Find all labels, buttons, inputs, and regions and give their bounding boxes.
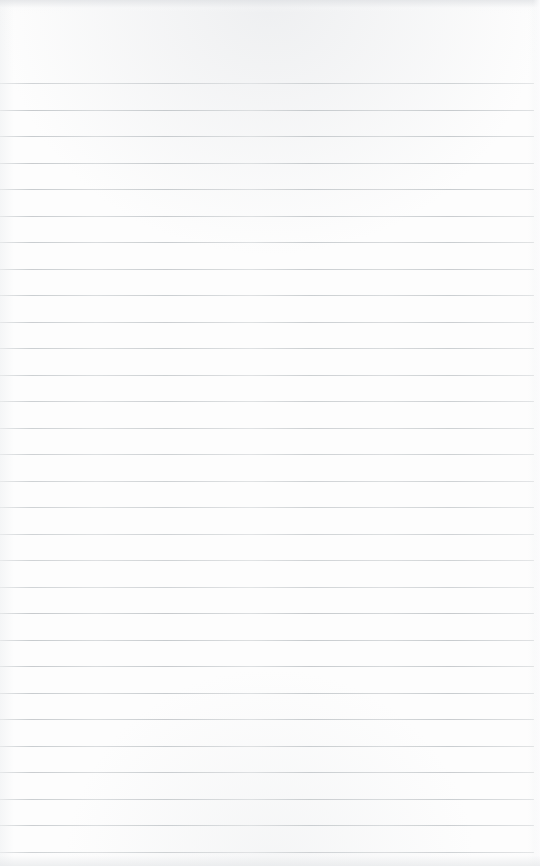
rule-line xyxy=(0,481,534,482)
rule-line xyxy=(0,693,534,694)
rule-line xyxy=(0,825,534,826)
rule-line xyxy=(0,613,534,614)
rule-line xyxy=(0,560,534,561)
ruled-lines-group xyxy=(0,0,540,866)
rule-line xyxy=(0,746,534,747)
rule-line xyxy=(0,375,534,376)
rule-line xyxy=(0,852,534,853)
rule-line xyxy=(0,587,534,588)
rule-line xyxy=(0,534,534,535)
rule-line xyxy=(0,719,534,720)
notebook-page xyxy=(0,0,540,866)
rule-line xyxy=(0,295,534,296)
rule-line xyxy=(0,163,534,164)
rule-line xyxy=(0,83,534,84)
rule-line xyxy=(0,216,534,217)
rule-line xyxy=(0,401,534,402)
rule-line xyxy=(0,136,534,137)
rule-line xyxy=(0,322,534,323)
rule-line xyxy=(0,772,534,773)
rule-line xyxy=(0,269,534,270)
rule-line xyxy=(0,640,534,641)
rule-line xyxy=(0,189,534,190)
rule-line xyxy=(0,507,534,508)
rule-line xyxy=(0,428,534,429)
rule-line xyxy=(0,454,534,455)
rule-line xyxy=(0,242,534,243)
rule-line xyxy=(0,348,534,349)
rule-line xyxy=(0,666,534,667)
rule-line xyxy=(0,799,534,800)
rule-line xyxy=(0,110,534,111)
